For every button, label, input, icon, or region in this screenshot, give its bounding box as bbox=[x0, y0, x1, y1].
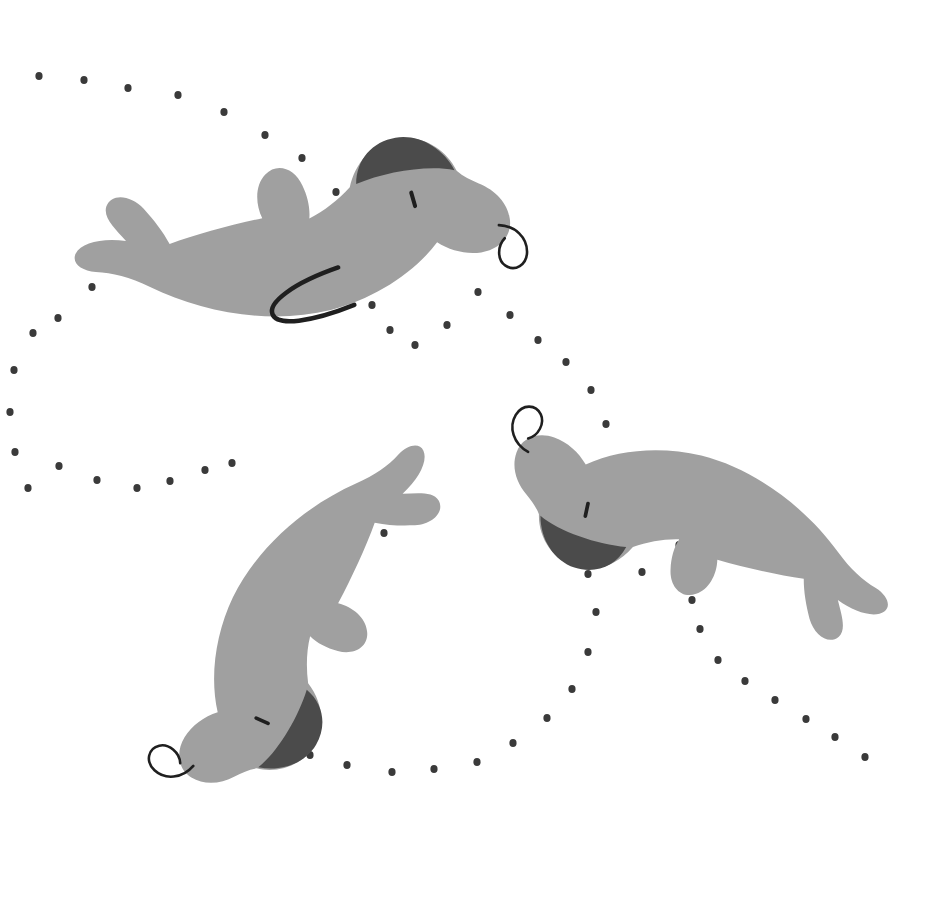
illustration-canvas bbox=[0, 0, 941, 916]
seal-group bbox=[0, 0, 941, 916]
seal-top-left bbox=[64, 116, 532, 364]
seal-bottom-right bbox=[479, 403, 914, 654]
seal-middle bbox=[143, 402, 462, 832]
